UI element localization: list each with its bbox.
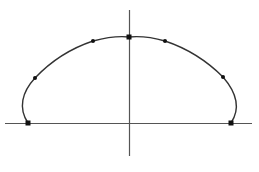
dot-marker-left-lower [33,76,37,80]
dot-marker-right-upper [163,39,167,43]
square-marker-left-endpoint [26,121,31,126]
diagram-svg [0,0,259,172]
square-marker-right-endpoint [229,121,234,126]
dot-marker-left-upper [91,39,95,43]
square-marker-apex [127,35,132,40]
dot-marker-right-lower [221,75,225,79]
diagram-canvas [0,0,259,172]
